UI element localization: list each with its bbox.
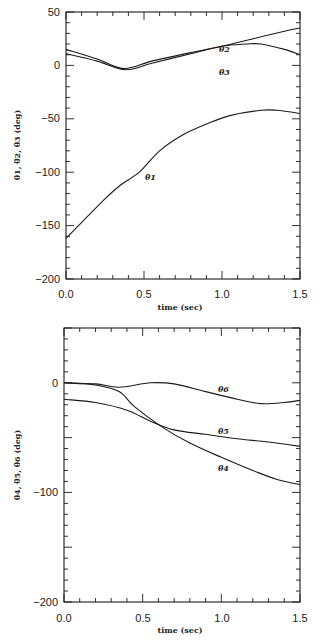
plot-1-xtick-0: 0.0	[58, 288, 73, 300]
series-label-theta4: θ4	[218, 463, 229, 473]
plot-1-ytick-0: 0	[54, 59, 60, 71]
plot-2: 0 −100 −200 0.0 0.5 1.0 1.5 time (sec) θ…	[12, 328, 308, 635]
plot-1-xtick-0.5: 0.5	[136, 288, 151, 300]
plot-2-xtick-0: 0.0	[56, 612, 71, 624]
plot-1-xtick-1.0: 1.0	[214, 288, 229, 300]
plot-2-ytick-0: 0	[52, 377, 58, 389]
plot-1-curves	[66, 28, 300, 238]
plot-2-xlabel: time (sec)	[157, 625, 202, 635]
curve-θ4	[64, 383, 300, 485]
series-label-theta3: θ3	[219, 67, 230, 77]
plot-1-xtick-1.5: 1.5	[292, 288, 307, 300]
plot-2-ylabel: θ4, θ5, θ6 (deg)	[12, 430, 22, 501]
series-label-theta6: θ6	[218, 384, 229, 394]
series-label-theta1: θ1	[145, 172, 156, 182]
plot-1-ticks	[66, 12, 300, 279]
plot-1-ytick-neg150: −150	[35, 219, 60, 231]
series-label-theta2: θ2	[219, 44, 230, 54]
figure: 50 0 −50 −100 −150 −200 0.0 0.5 1.0 1.5 …	[0, 0, 321, 640]
plot-1-frame	[66, 12, 300, 279]
plot-1-ytick-neg200: −200	[35, 273, 60, 285]
curve-θ3	[66, 44, 300, 70]
plot-2-frame	[64, 328, 300, 602]
curve-θ1	[66, 110, 300, 239]
plot-1-xlabel: time (sec)	[157, 302, 202, 312]
plot-2-curves	[64, 383, 300, 485]
plot-2-xtick-0.5: 0.5	[135, 612, 150, 624]
plot-1: 50 0 −50 −100 −150 −200 0.0 0.5 1.0 1.5 …	[12, 6, 308, 312]
plot-2-xtick-1.5: 1.5	[292, 612, 307, 624]
plot-2-ytick-neg200: −200	[33, 596, 58, 608]
plot-1-ytick-neg100: −100	[35, 166, 60, 178]
plot-1-ytick-neg50: −50	[41, 112, 60, 124]
plot-2-xtick-1.0: 1.0	[214, 612, 229, 624]
plot-1-ytick-50: 50	[48, 6, 60, 18]
plot-1-ylabel: θ1, θ2, θ3 (deg)	[12, 110, 22, 181]
series-label-theta5: θ5	[218, 426, 229, 436]
plot-2-ytick-neg100: −100	[33, 486, 58, 498]
plot-2-ticks	[64, 328, 300, 602]
